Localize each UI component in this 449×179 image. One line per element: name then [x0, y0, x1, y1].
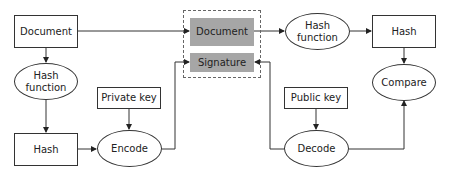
hash-function-right-line1: Hash [305, 20, 330, 32]
compare-label: Compare [381, 77, 426, 89]
signed-document-label: Document [196, 26, 248, 38]
document-source-label: Document [20, 26, 72, 38]
hash-function-right-ellipse: Hash function [285, 13, 350, 50]
public-key-box: Public key [284, 87, 348, 109]
hash-left-label: Hash [33, 144, 58, 156]
signature-box: Signature [190, 53, 254, 72]
hash-function-left-line1: Hash [33, 70, 58, 82]
private-key-box: Private key [97, 87, 161, 109]
signature-label: Signature [198, 57, 246, 69]
hash-right-box: Hash [372, 15, 436, 48]
encode-label: Encode [111, 143, 148, 155]
signed-document-box: Document [190, 18, 254, 46]
encode-ellipse: Encode [97, 130, 162, 167]
hash-function-left-ellipse: Hash function [14, 63, 78, 100]
hash-function-left-line2: function [26, 82, 67, 94]
compare-ellipse: Compare [372, 64, 436, 101]
decode-ellipse: Decode [284, 130, 349, 167]
hash-right-label: Hash [391, 26, 416, 38]
private-key-label: Private key [101, 92, 157, 104]
digital-signature-diagram: Document Hash function Hash Private key … [0, 0, 449, 179]
hash-function-right-line2: function [297, 32, 338, 44]
edge-decode-to-compare [349, 101, 404, 149]
document-source-box: Document [14, 15, 78, 48]
hash-left-box: Hash [14, 133, 78, 166]
decode-label: Decode [298, 143, 336, 155]
public-key-label: Public key [291, 92, 341, 104]
